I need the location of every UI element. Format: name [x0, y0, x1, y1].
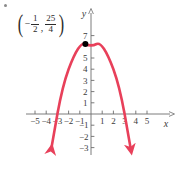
vertex-y-value: 25 4: [45, 14, 56, 34]
denominator: 4: [48, 25, 55, 35]
open-paren: (: [18, 14, 23, 34]
x-axis-label: x: [163, 118, 169, 129]
y-tick-label: 7: [83, 31, 88, 41]
vertex-x-value: − 1 2: [25, 14, 40, 34]
y-tick-label: −3: [79, 143, 89, 153]
x-tick-label: −2: [64, 116, 74, 126]
x-tick-label: 1: [100, 116, 105, 126]
x-tick-label: 2: [111, 116, 116, 126]
y-tick-label: 1: [83, 98, 88, 108]
numerator: 1: [32, 14, 39, 24]
fraction-one-half: 1 2: [31, 14, 39, 34]
y-tick-label: 2: [83, 87, 88, 97]
y-tick-label: 4: [83, 64, 88, 74]
x-tick-labels: −5 −4 −3 −2 −1 1 2 3 4 5: [30, 116, 150, 126]
x-tick-label: −4: [41, 116, 51, 126]
y-axis-label: y: [81, 8, 87, 19]
x-tick-label: 5: [145, 116, 150, 126]
y-axis-ticks: [91, 36, 94, 148]
coordinate-comma: ,: [41, 23, 44, 34]
numerator: 25: [45, 14, 56, 24]
y-tick-label: −2: [79, 132, 89, 142]
y-tick-label: 5: [83, 53, 88, 63]
y-tick-label: 3: [83, 76, 88, 86]
vertex-coordinate-label: ( − 1 2 , 25 4 ): [16, 14, 65, 34]
y-tick-labels: 7 5 4 3 2 1 −1 −2 −3: [79, 31, 89, 153]
x-tick-label: 4: [134, 116, 139, 126]
parabola-figure: −5 −4 −3 −2 −1 1 2 3 4 5 7 5 4 3 2 1 −1 …: [0, 0, 181, 171]
axis-lines: [26, 13, 170, 155]
vertex-point-marker: [82, 41, 88, 47]
minus-sign: −: [25, 19, 31, 29]
y-tick-label: −1: [79, 120, 89, 130]
x-tick-label: −5: [30, 116, 40, 126]
denominator: 2: [32, 25, 39, 35]
close-paren: ): [58, 14, 63, 34]
